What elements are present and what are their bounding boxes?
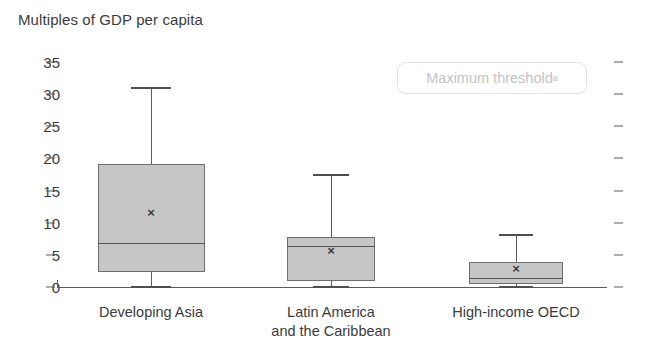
right-tick-mark — [614, 158, 623, 159]
upper-whisker-line — [331, 175, 332, 237]
y-tick-mark — [46, 190, 55, 191]
y-tick-mark — [46, 158, 55, 159]
category-label-line: High-income OECD — [406, 303, 626, 322]
category-label-line: and the Caribbean — [221, 322, 441, 341]
y-tick-mark — [46, 287, 55, 288]
lower-whisker-cap — [499, 286, 533, 288]
upper-whisker-cap — [313, 174, 349, 176]
category-label: High-income OECD — [406, 303, 626, 322]
right-tick-mark — [614, 126, 623, 127]
lower-whisker-cap — [131, 286, 171, 288]
y-tick-mark — [46, 126, 55, 127]
mean-marker-icon: × — [512, 262, 520, 275]
upper-whisker-cap — [131, 87, 171, 89]
upper-whisker-cap — [499, 234, 533, 236]
right-tick-mark — [614, 62, 623, 63]
median-line — [98, 243, 205, 244]
right-tick-mark — [614, 222, 623, 223]
lower-whisker-cap — [313, 286, 349, 288]
maximum-threshold-annotation: Maximum thresholda — [397, 62, 587, 94]
upper-whisker-line — [516, 235, 517, 262]
right-tick-mark — [614, 287, 623, 288]
right-tick-mark — [614, 254, 623, 255]
y-tick-mark — [46, 254, 55, 255]
upper-whisker-line — [151, 88, 152, 164]
y-tick-mark — [46, 62, 55, 63]
y-axis-stub — [57, 280, 58, 288]
maximum-threshold-label: Maximum threshold — [426, 70, 553, 86]
mean-marker-icon: × — [147, 206, 155, 219]
right-tick-mark — [614, 94, 623, 95]
y-axis: 05101520253035 — [8, 0, 60, 352]
y-tick-mark — [46, 222, 55, 223]
box-plot-chart: Multiples of GDP per capita 051015202530… — [0, 0, 647, 352]
median-line — [469, 278, 563, 279]
right-tick-mark — [614, 190, 623, 191]
y-tick-mark — [46, 94, 55, 95]
lower-whisker-line — [151, 272, 152, 287]
mean-marker-icon: × — [327, 244, 335, 257]
